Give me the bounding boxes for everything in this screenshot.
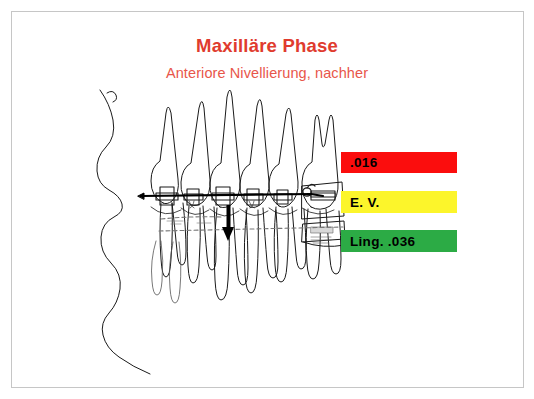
legend-item-elastic-chain[interactable]: E. V. bbox=[341, 191, 457, 213]
legend-item-wire-016[interactable]: .016 bbox=[341, 152, 457, 173]
slide-root: Maxilläre Phase Anteriore Nivellierung, … bbox=[0, 0, 534, 399]
bracket bbox=[274, 190, 292, 204]
palatal-profile-contour bbox=[97, 90, 150, 374]
legend-label: Ling. .036 bbox=[350, 234, 415, 249]
force-arrow bbox=[222, 205, 234, 241]
legend-label: E. V. bbox=[350, 195, 380, 210]
mandibular-teeth-outline bbox=[152, 241, 181, 303]
legend-item-lingual-arch-036[interactable]: Ling. .036 bbox=[341, 230, 457, 252]
legend-label: .016 bbox=[350, 155, 377, 170]
gingival-contour-lines bbox=[151, 207, 334, 216]
